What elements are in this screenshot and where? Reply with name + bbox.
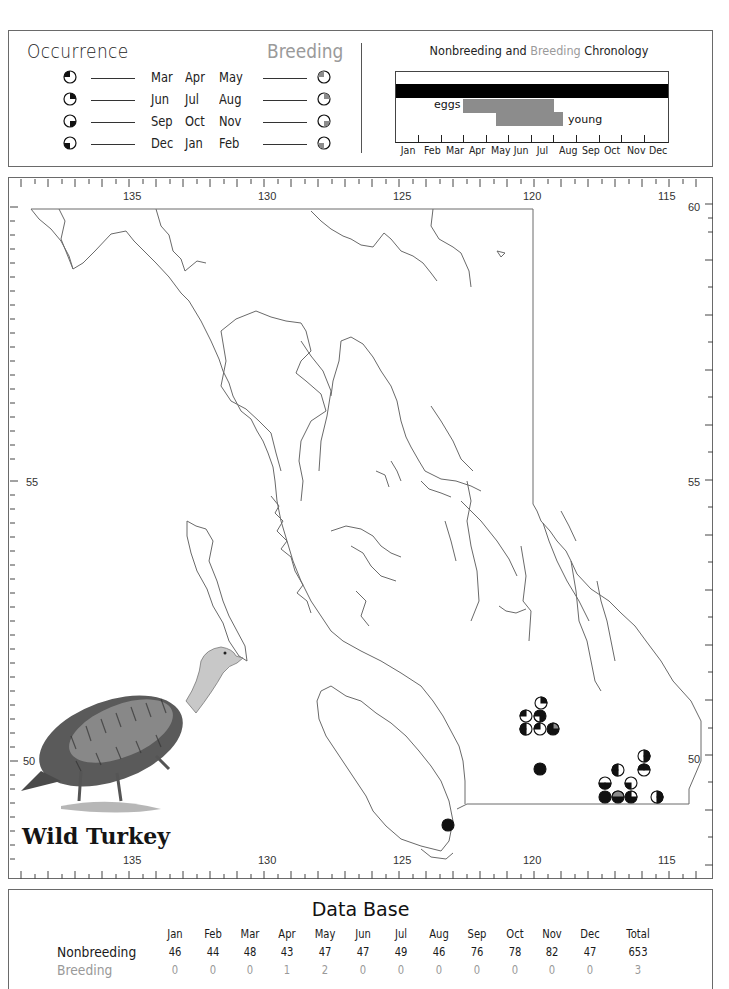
record-symbol [520,723,532,735]
longitude-label: 130 [258,854,276,866]
table-cell: 47 [574,944,606,959]
table-cell: 0 [234,962,266,977]
table-cell: 0 [159,962,191,977]
occurrence-records [442,697,663,831]
chronology-month-label: Jun [514,144,529,156]
column-header: Total [622,926,654,941]
record-symbol [534,763,546,775]
wild-turkey-illustration [21,647,243,813]
chronology-title-suffix: Chronology [584,43,648,58]
chronology-month-label: Jul [537,144,548,156]
young-label: young [568,113,602,126]
chronology-title-nonbreeding: Nonbreeding [430,43,502,58]
nonbreeding-bar [396,84,668,98]
legend-connector [91,78,135,79]
table-cell: 44 [197,944,229,959]
record-symbol [651,791,663,803]
legend-connector [263,100,307,101]
axis-tick [553,135,554,143]
column-header: Jun [347,926,379,941]
eggs-label: eggs [434,98,460,111]
column-header: Jul [385,926,417,941]
pie-quarter-sw-gray-icon [317,136,331,150]
legend-month: Jan [185,135,203,151]
pie-quarter-nw-icon [63,70,77,84]
column-header: Dec [574,926,606,941]
table-cell: 43 [271,944,303,959]
axis-tick [531,135,532,143]
species-name: Wild Turkey [22,823,170,849]
table-cell: 1 [271,962,303,977]
legend-month: Apr [185,69,205,85]
column-header: Mar [234,926,266,941]
record-symbol [612,764,624,776]
legend-connector [91,100,135,101]
map-panel: 135 130 125 120 115 135 130 125 120 115 … [8,177,713,879]
legend-panel: Occurrence Breeding Mar Apr May Jun Jul … [8,30,713,167]
pie-quarter-nw-gray-icon [317,70,331,84]
chronology-month-label: May [491,144,511,156]
occurrence-title: Occurrence [27,39,129,63]
longitude-label: 125 [393,854,411,866]
axis-tick [463,135,464,143]
table-cell: 48 [234,944,266,959]
table-cell: 3 [622,962,654,977]
column-header: Apr [271,926,303,941]
legend-month: Jul [185,91,199,107]
chronology-month-label: Apr [469,144,485,156]
database-row-nonbreeding: Nonbreeding 46 44 48 43 47 47 49 46 76 7… [9,944,712,962]
table-cell: 49 [385,944,417,959]
record-symbol [599,777,611,789]
longitude-label: 120 [523,854,541,866]
young-bar [496,112,563,126]
table-cell: 46 [159,944,191,959]
legend-row-summer: Jun Jul Aug [63,90,333,110]
table-cell: 0 [499,962,531,977]
axis-tick [644,135,645,143]
longitude-label: 135 [123,854,141,866]
record-symbol [535,697,547,709]
legend-connector [263,78,307,79]
pie-quarter-ne-icon [63,92,77,106]
chronology-month-label: Nov [627,144,645,156]
database-row-breeding: Breeding 0 0 0 1 2 0 0 0 0 0 0 0 3 [9,962,712,980]
legend-month: Nov [219,113,241,129]
chronology-title-breeding: Breeding [530,43,580,58]
longitude-label: 130 [258,190,276,202]
column-header: Aug [423,926,455,941]
record-symbol [534,710,546,722]
legend-month: Sep [151,113,173,129]
record-symbol [612,791,624,803]
database-panel: Data Base Jan Feb Mar Apr May Jun Jul Au… [8,889,713,989]
database-title: Data Base [27,897,695,921]
latitude-label: 55 [26,476,38,488]
longitude-label: 125 [393,190,411,202]
column-header: Feb [197,926,229,941]
latitude-label: 60 [688,201,700,213]
record-symbol [520,710,532,722]
record-symbol [638,750,650,762]
chronology-title: Nonbreeding and Breeding Chronology [391,43,688,58]
chronology-title-and: and [506,43,527,58]
row-label: Nonbreeding [57,944,136,960]
table-cell: 0 [197,962,229,977]
table-cell: 653 [622,944,654,959]
legend-month: Oct [185,113,205,129]
chronology-month-label: Sep [582,144,600,156]
column-header: Jan [159,926,191,941]
legend-row-autumn: Sep Oct Nov [63,112,333,132]
pie-quarter-se-gray-icon [317,114,331,128]
table-cell: 82 [536,944,568,959]
longitude-label: 120 [523,190,541,202]
table-cell: 78 [499,944,531,959]
table-cell: 0 [574,962,606,977]
table-cell: 2 [309,962,341,977]
chronology-month-label: Feb [424,144,441,156]
legend-month: Jun [151,91,169,107]
column-header: Nov [536,926,568,941]
legend-divider [361,43,362,153]
chronology-month-label: Oct [604,144,620,156]
column-header: May [309,926,341,941]
table-cell: 46 [423,944,455,959]
record-symbol [625,777,637,789]
